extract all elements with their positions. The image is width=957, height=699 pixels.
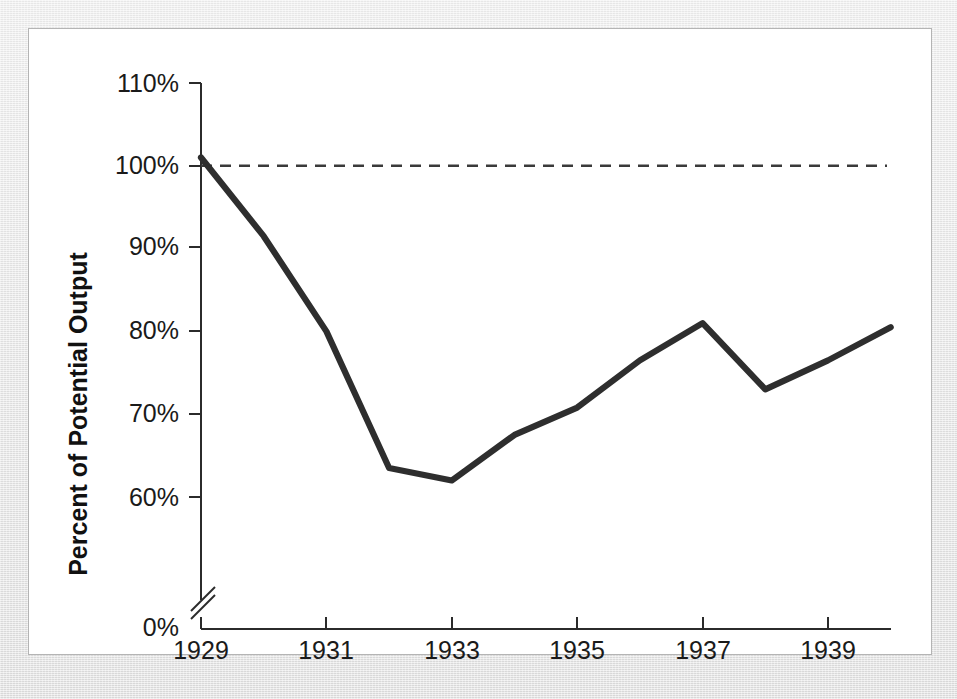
figure-root: Percent of Potential Output 110% 100% 90…	[0, 0, 957, 699]
y-tick-label-110: 110%	[117, 69, 179, 97]
x-tick-label-1939: 1939	[800, 636, 856, 664]
y-tick-label-80: 80%	[129, 316, 179, 344]
y-tick-label-60: 60%	[129, 483, 179, 511]
x-tick-label-1935: 1935	[549, 636, 605, 664]
x-tick-label-1931: 1931	[298, 636, 354, 664]
x-tick-label-1929: 1929	[173, 636, 229, 664]
chart-card: Percent of Potential Output 110% 100% 90…	[28, 28, 932, 655]
x-tick-label-1937: 1937	[675, 636, 731, 664]
line-chart-plot: Percent of Potential Output 110% 100% 90…	[29, 29, 933, 656]
y-tick-label-90: 90%	[129, 232, 179, 260]
y-tick-label-100: 100%	[115, 151, 179, 179]
x-tick-label-1933: 1933	[424, 636, 480, 664]
y-axis-title: Percent of Potential Output	[64, 252, 92, 576]
y-tick-label-70: 70%	[129, 399, 179, 427]
output-gap-series-line	[201, 158, 891, 481]
